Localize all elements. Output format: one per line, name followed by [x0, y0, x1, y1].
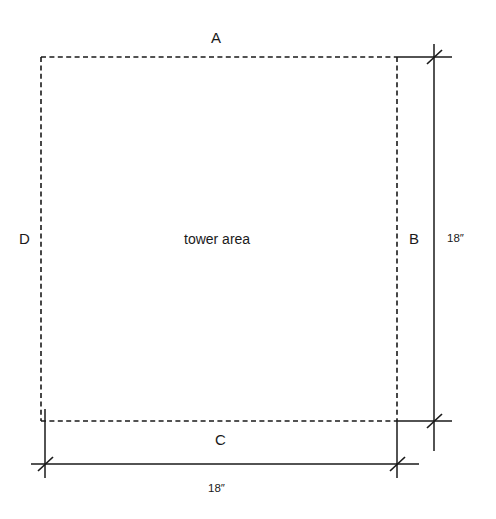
dimension-lines: [31, 44, 434, 464]
tower-area-label: tower area: [184, 232, 250, 246]
side-label-d: D: [19, 231, 30, 246]
side-label-b: B: [409, 231, 419, 246]
dimension-diagram: A B C D tower area 18″ 18″: [0, 0, 496, 519]
extension-lines: [45, 57, 452, 478]
dimension-label-bottom: 18″: [208, 483, 225, 495]
side-label-a: A: [211, 30, 221, 45]
diagram-canvas: [0, 0, 496, 519]
side-label-c: C: [215, 432, 226, 447]
dimension-tick-marks: [38, 50, 442, 471]
dimension-label-right: 18″: [447, 233, 464, 245]
